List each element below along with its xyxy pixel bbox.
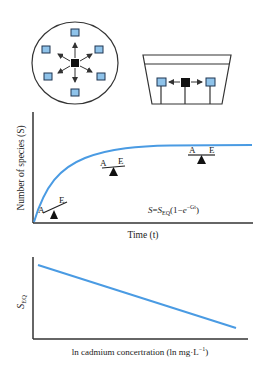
species-time-chart: A E A E A E S=SEQ(1−e−Gt) Number of spec… (16, 112, 253, 241)
balance-middle: A E (100, 156, 125, 176)
y-axis-label: SEQ (15, 295, 27, 309)
source-node (181, 78, 190, 87)
label-A: A (38, 205, 45, 215)
seq-line (38, 265, 236, 328)
seq-cadmium-chart: SEQ ln cadmium concertration (ln mg·L−1) (15, 257, 248, 357)
label-E: E (209, 145, 215, 155)
x-axis-label: Time (t) (127, 230, 158, 241)
trapezoid-diagram (143, 55, 231, 104)
stems (161, 86, 210, 104)
species-curve (34, 145, 252, 222)
equation: S=SEQ(1−e−Gt) (148, 204, 199, 216)
balance-late: A E (188, 145, 215, 164)
circle-diagram (32, 22, 118, 104)
source-node (71, 59, 79, 67)
label-A: A (189, 145, 196, 155)
label-E: E (118, 156, 124, 166)
y-axis-label: Number of species (S) (16, 125, 27, 210)
x-axis-label: ln cadmium concertration (ln mg·L−1) (72, 346, 208, 357)
label-E: E (59, 195, 65, 205)
label-A: A (100, 158, 107, 168)
figure-canvas: A E A E A E S=SEQ(1−e−Gt) Number of spec… (0, 0, 262, 370)
